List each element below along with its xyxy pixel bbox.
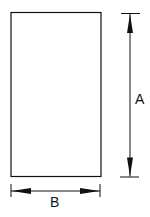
dimension-label-b: B: [50, 194, 59, 210]
arrowhead-a-top: [127, 14, 133, 33]
rectangle-shape: [11, 13, 101, 177]
dimension-diagram: A B: [0, 0, 150, 217]
arrowhead-b-right: [80, 188, 100, 194]
arrowhead-b-left: [12, 188, 32, 194]
dimension-label-a: A: [135, 91, 145, 107]
arrowhead-a-bottom: [127, 158, 133, 177]
